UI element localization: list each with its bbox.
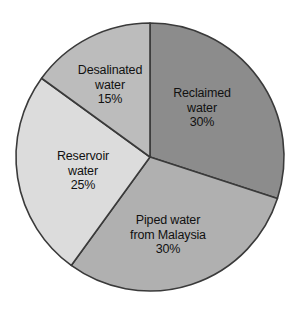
pie-slices-group [16, 23, 284, 291]
pie-chart: Reclaimedwater30%Piped waterfrom Malaysi… [0, 0, 296, 315]
pie-chart-graphic [0, 0, 296, 315]
